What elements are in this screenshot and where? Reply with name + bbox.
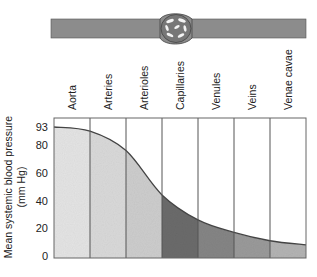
- y-axis-ticks: 02040608093: [36, 121, 48, 262]
- category-label: Venules: [210, 73, 222, 110]
- category-label: Venae cavae: [282, 49, 294, 110]
- y-tick-label: 60: [36, 167, 48, 179]
- y-tick-label: 80: [36, 139, 48, 151]
- y-tick-label: 40: [36, 195, 48, 207]
- category-label: Capillaries: [174, 61, 186, 110]
- category-label: Arteries: [102, 74, 114, 110]
- y-axis-title: Mean systemic blood pressure: [2, 116, 14, 259]
- category-label: Arterioles: [138, 66, 150, 110]
- category-labels: AortaArteriesArteriolesCapillariesVenule…: [66, 49, 294, 110]
- vessel-illustration: [51, 14, 306, 44]
- segment-aorta: [54, 118, 91, 258]
- category-label: Aorta: [66, 85, 78, 110]
- y-tick-label: 20: [36, 222, 48, 234]
- y-tick-label: 0: [42, 250, 48, 262]
- blood-pressure-figure: AortaArteriesArteriolesCapillariesVenule…: [0, 0, 317, 277]
- plot-area: [54, 118, 307, 258]
- category-label: Veins: [246, 84, 258, 110]
- y-tick-label: 93: [36, 121, 48, 133]
- y-axis-units: (mm Hg): [15, 167, 27, 208]
